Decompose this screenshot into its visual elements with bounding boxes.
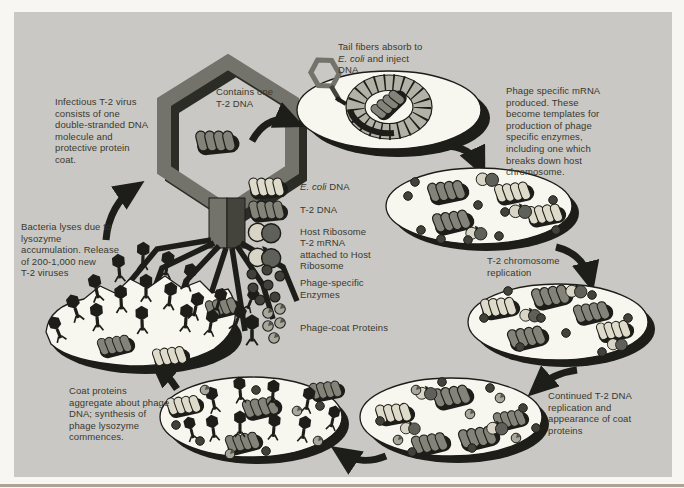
label-contains-dna: Contains one T-2 DNA bbox=[216, 86, 300, 109]
t2-dna-in-head bbox=[195, 130, 241, 156]
host-ribosome-icon bbox=[248, 223, 280, 242]
legend-label-t2-dna: T-2 DNA bbox=[300, 204, 337, 216]
virus-tail-sheath bbox=[209, 198, 227, 248]
cell-continued-replication bbox=[360, 378, 549, 463]
legend-label-coat-proteins: Phage-coat Proteins bbox=[300, 322, 388, 334]
legend-label-t2-mrna: T-2 mRNA attached to Host Ribosome bbox=[300, 237, 390, 272]
label-mrna-production: Phage specific mRNA produced. These beco… bbox=[506, 85, 612, 178]
page-edge-shadow bbox=[0, 484, 684, 487]
cell-mrna-production bbox=[386, 168, 579, 251]
legend-icons bbox=[245, 177, 289, 345]
legend-label-enzymes: Phage-specific Enzymes bbox=[300, 277, 390, 300]
label-virus-description: Infectious T-2 virus consists of one dou… bbox=[55, 96, 167, 166]
legend-label-ecoli-dna: E. coli DNA bbox=[300, 181, 350, 193]
label-continued-replication: Continued T-2 DNA replication and appear… bbox=[548, 390, 644, 436]
legend-label-host-ribosome: Host Ribosome bbox=[300, 226, 366, 238]
t2-dna-icon bbox=[248, 200, 289, 223]
figure-canvas: Infectious T-2 virus consists of one dou… bbox=[0, 0, 684, 488]
t2-mrna-ribosome-icon bbox=[248, 246, 280, 268]
arrow-replication-to-continued bbox=[537, 370, 577, 388]
arrow-continued-to-assembly bbox=[341, 453, 386, 460]
label-coat-assembly: Coat proteins aggregate about phage DNA;… bbox=[69, 385, 173, 443]
cell-chromosome-replication bbox=[468, 283, 655, 367]
label-chromosome-replication: T-2 chromosome replication bbox=[487, 255, 583, 278]
phage-coat-proteins-icon bbox=[245, 304, 285, 346]
label-lysis: Bacteria lyses due to lysozyme accumulat… bbox=[21, 221, 125, 279]
label-adsorption: Tail fibers absorb toE. coli and injectD… bbox=[338, 41, 458, 76]
cell-coat-assembly bbox=[160, 376, 349, 464]
